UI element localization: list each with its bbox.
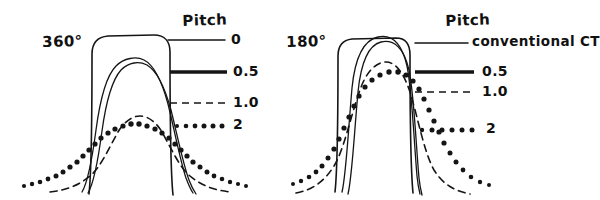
- legend-title-360: Pitch: [182, 10, 227, 30]
- legend-360-lines: [168, 40, 227, 129]
- legend-180-line-2: [420, 128, 475, 133]
- legend-180-lines: [415, 43, 475, 133]
- legend-360-line-2: [175, 124, 225, 129]
- curve-360-pitch-0: [89, 35, 173, 195]
- panel-label-360: 360°: [42, 32, 83, 51]
- legend-label-180-conventional: conventional CT: [472, 33, 600, 49]
- curve-360-pitch-2: [22, 121, 248, 188]
- panel-360-curves: [22, 35, 248, 195]
- legend-label-180-05: 0.5: [482, 63, 508, 79]
- legend-label-360-05: 0.5: [233, 63, 259, 79]
- legend-label-360-10: 1.0: [233, 94, 259, 110]
- curve-180-pitch-1: [296, 62, 470, 194]
- legend-label-360-2: 2: [233, 116, 243, 132]
- panel-180-curves: [291, 36, 491, 195]
- legend-label-180-2: 2: [486, 120, 496, 136]
- curve-180-conventional: [335, 38, 413, 193]
- panel-label-180: 180°: [286, 32, 327, 51]
- legend-label-180-10: 1.0: [482, 83, 508, 99]
- legend-title-180: Pitch: [445, 10, 490, 30]
- legend-label-360-0: 0: [231, 31, 241, 47]
